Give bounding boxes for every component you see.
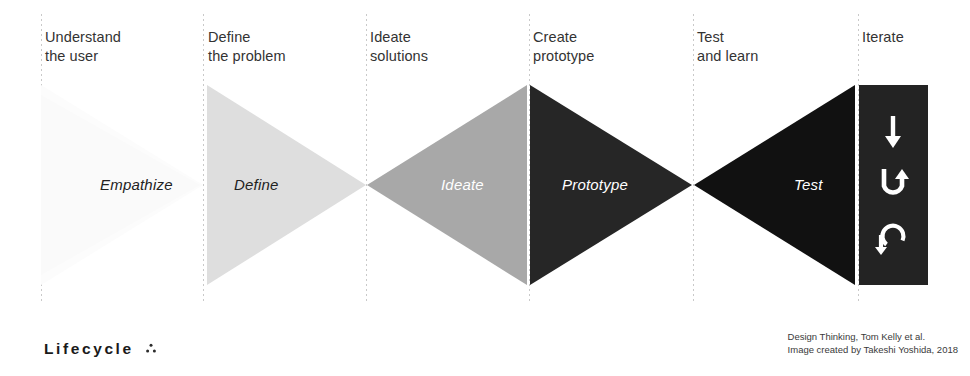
guide-line-4 (693, 14, 694, 302)
u-turn-arrow-icon (884, 169, 909, 192)
three-dots-icon (143, 341, 159, 357)
guide-line-3 (529, 14, 530, 302)
loop-arrow-icon (875, 226, 903, 255)
column-header-iterate: Iterate (862, 28, 904, 47)
guide-line-5 (858, 14, 859, 302)
column-header-define: Define the problem (208, 28, 286, 66)
credit-text: Design Thinking, Tom Kelly et al. Image … (788, 330, 958, 356)
phase-label-empathize: Empathize (100, 176, 173, 193)
test-shape (694, 85, 855, 285)
guide-line-0 (41, 14, 42, 302)
column-header-ideate: Ideate solutions (370, 28, 428, 66)
phase-label-define: Define (234, 176, 279, 193)
design-thinking-diagram: Understand the user Define the problem I… (0, 0, 970, 376)
brand-name: Lifecycle (44, 340, 134, 358)
column-header-create: Create prototype (533, 28, 594, 66)
column-header-test: Test and learn (697, 28, 758, 66)
iterate-shape (859, 85, 928, 285)
guide-line-2 (366, 14, 367, 302)
guide-line-1 (203, 14, 204, 302)
phase-label-test: Test (794, 176, 823, 193)
column-header-understand: Understand the user (45, 28, 121, 66)
define-shape (207, 85, 366, 285)
arrow-right-icon (885, 116, 901, 148)
phase-label-ideate: Ideate (441, 176, 484, 193)
phase-label-prototype: Prototype (562, 176, 628, 193)
brand-lockup: Lifecycle (44, 340, 159, 358)
